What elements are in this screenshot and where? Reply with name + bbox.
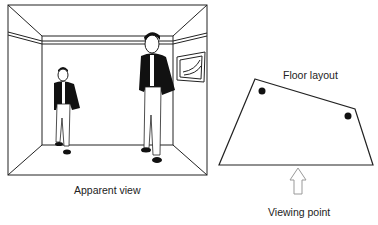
floor-layout-drawing: [219, 79, 373, 194]
small-person-figure: [54, 67, 80, 155]
diagram-canvas: [0, 0, 378, 225]
large-person-figure: [139, 32, 175, 163]
apparent-view-caption: Apparent view: [74, 184, 141, 196]
left-person-marker: [259, 88, 266, 95]
floor-layout-title: Floor layout: [283, 69, 338, 81]
up-arrow-icon: [290, 168, 306, 194]
room-outer-frame: [8, 5, 207, 175]
floor-trapezoid: [219, 79, 373, 165]
room-drawing: [8, 5, 207, 175]
viewing-point-caption: Viewing point: [268, 206, 330, 218]
right-person-marker: [345, 113, 352, 120]
